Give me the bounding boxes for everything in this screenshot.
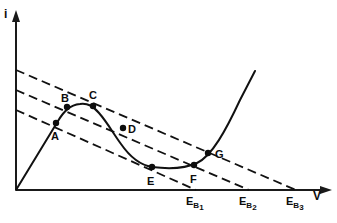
- iv-characteristic-diagram: i V A B C D E F G EB1 EB2 EB3: [0, 0, 337, 223]
- point-label-f: F: [190, 173, 197, 185]
- point-label-a: A: [51, 130, 59, 142]
- point-marker-c: [90, 103, 96, 109]
- point-marker-b: [64, 104, 70, 110]
- figure-root: i V A B C D E F G EB1 EB2 EB3: [0, 0, 337, 223]
- x-tick-eb3-main: E: [286, 195, 293, 207]
- current-axis-label: i: [4, 7, 7, 21]
- point-marker-d: [120, 125, 126, 131]
- point-label-e: E: [147, 175, 154, 187]
- x-tick-label-eb1: EB1: [186, 195, 204, 212]
- point-marker-f: [191, 162, 197, 168]
- point-label-d: D: [128, 123, 136, 135]
- point-marker-e: [149, 164, 155, 170]
- point-label-b: B: [61, 92, 69, 104]
- voltage-axis-arrow-icon: [320, 186, 332, 194]
- x-tick-eb3-sub2: 3: [299, 203, 304, 212]
- point-label-c: C: [89, 89, 97, 101]
- point-marker-a: [53, 120, 59, 126]
- current-axis-arrow-icon: [12, 10, 20, 22]
- x-tick-label-eb2: EB2: [239, 195, 257, 212]
- x-tick-eb2-sub2: 2: [252, 203, 257, 212]
- x-tick-eb2-main: E: [239, 195, 246, 207]
- x-tick-label-eb3: EB3: [286, 195, 304, 212]
- point-label-g: G: [215, 148, 224, 160]
- x-tick-eb1-sub2: 1: [199, 203, 204, 212]
- x-tick-eb1-main: E: [186, 195, 193, 207]
- voltage-axis-label: V: [313, 189, 321, 203]
- point-marker-g: [205, 150, 211, 156]
